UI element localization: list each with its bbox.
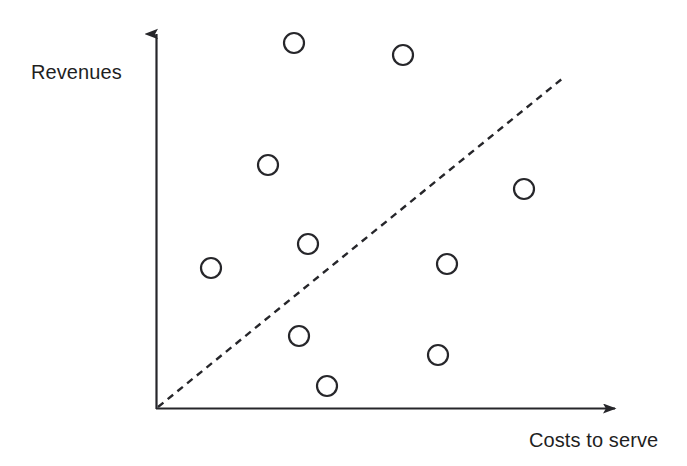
y-axis-label: Revenues [31,62,122,82]
data-point-marker [428,345,448,365]
data-point-marker [289,326,309,346]
data-point-marker [437,254,457,274]
data-point-marker [298,234,318,254]
scatter-chart-figure: Revenues Costs to serve [0,0,687,466]
x-axis-label: Costs to serve [529,430,658,450]
data-point-marker [317,376,337,396]
data-point-marker [201,258,221,278]
break-even-dashed-line [158,78,563,407]
reference-line-group [158,78,563,407]
data-point-marker [258,155,278,175]
data-points-group [201,33,534,396]
data-point-marker [514,179,534,199]
data-point-marker [393,45,413,65]
data-point-marker [284,33,304,53]
